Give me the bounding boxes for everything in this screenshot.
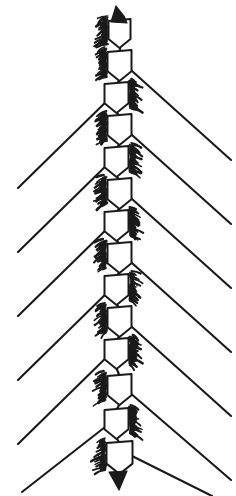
line-art-figure [0, 0, 236, 496]
illustration-canvas [0, 0, 236, 496]
